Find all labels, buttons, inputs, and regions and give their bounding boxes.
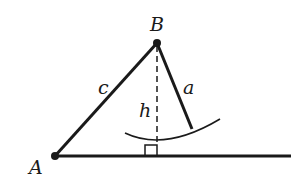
radius-arc (125, 119, 220, 140)
label-c: c (98, 76, 109, 98)
label-B: B (149, 13, 164, 35)
point-B (153, 39, 161, 47)
label-A: A (27, 156, 43, 178)
label-h: h (139, 99, 151, 121)
diagram-canvas: B A c a h (0, 0, 291, 194)
label-a: a (183, 76, 194, 98)
point-A (51, 152, 59, 160)
right-angle-marker (145, 145, 157, 156)
